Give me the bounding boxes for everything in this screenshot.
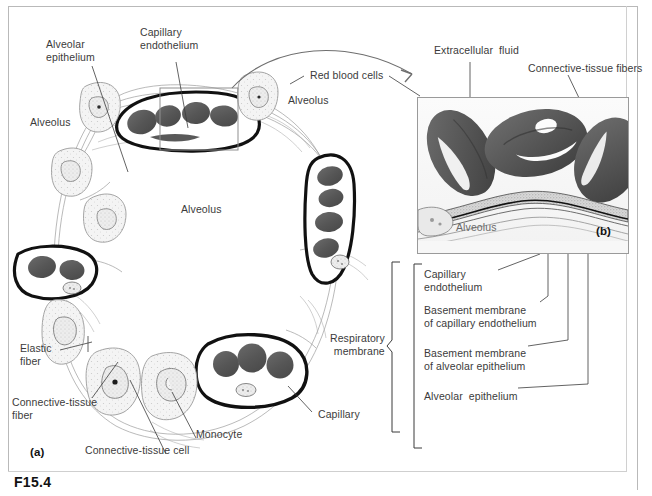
label-extracellular-fluid: Extracellular fluid <box>434 44 519 57</box>
label-elastic-fiber: Elastic fiber <box>20 342 52 367</box>
label-alveolus-top-right: Alveolus <box>288 94 329 107</box>
inset-alveolus-label: Alveolus <box>456 221 497 234</box>
panel-b-marker: (b) <box>596 225 611 238</box>
label-membrane-layer-3: Alveolar epithelium <box>424 390 518 403</box>
inset-panel-b: Alveolus (b) <box>417 97 629 254</box>
label-connective-tissue-fibers: Connective-tissue fibers <box>528 62 642 75</box>
capillary-bottom <box>196 335 307 408</box>
label-connective-tissue-fiber: Connective-tissue fiber <box>12 396 97 421</box>
figure-id: F15.4 <box>14 474 51 490</box>
label-capillary-endothelium: Capillary endothelium <box>140 26 198 51</box>
label-red-blood-cells: Red blood cells <box>310 69 383 82</box>
label-capillary: Capillary <box>318 408 360 421</box>
label-membrane-layer-0: Capillary endothelium <box>424 268 482 293</box>
capillary-right <box>305 155 355 283</box>
label-connective-tissue-cell: Connective-tissue cell <box>85 444 189 457</box>
label-respiratory-membrane: Respiratory membrane <box>330 332 385 357</box>
label-membrane-layer-1: Basement membrane of capillary endotheli… <box>424 304 537 329</box>
label-alveolus-center: Alveolus <box>181 203 222 216</box>
label-alveolus-left: Alveolus <box>30 116 71 129</box>
label-alveolar-epithelium: Alveolar epithelium <box>46 38 95 63</box>
label-monocyte: Monocyte <box>196 428 242 441</box>
respiratory-membrane-bracket <box>387 262 422 448</box>
figure-page: Alveolus (b) Alveolar epithelium Capilla… <box>0 0 652 496</box>
capillary-left <box>14 246 96 298</box>
label-membrane-layer-2: Basement membrane of alveolar epithelium <box>424 347 526 372</box>
panel-a-marker: (a) <box>30 446 44 459</box>
